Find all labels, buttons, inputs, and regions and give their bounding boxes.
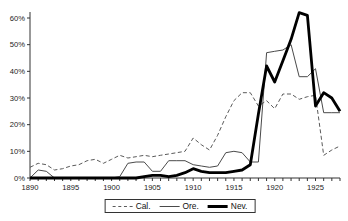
legend-label-ore: Ore. [183,202,199,210]
chart-legend: Cal. Ore. Nev. [105,199,256,213]
chart-figure: 0%10%20%30%40%50%60%18901895190019051910… [0,0,348,221]
legend-swatch-thick-line [208,205,228,208]
x-tick-label: 1915 [225,183,242,192]
x-tick-label: 1920 [266,183,283,192]
legend-label-nev: Nev. [231,202,248,210]
legend-item-cal: Cal. [113,202,151,210]
y-tick-label: 40% [10,67,25,76]
y-tick-label: 50% [10,40,25,49]
x-tick-label: 1910 [185,183,202,192]
x-tick-label: 1900 [103,183,120,192]
y-tick-label: 0% [14,174,25,183]
x-tick-label: 1895 [62,183,79,192]
chart-canvas: 0%10%20%30%40%50%60%18901895190019051910… [0,0,348,221]
series-line-cal [30,93,340,170]
legend-item-ore: Ore. [160,202,199,210]
legend-item-nev: Nev. [208,202,248,210]
legend-swatch-dashed-line [113,206,133,207]
series-line-ore [30,45,340,178]
y-tick-label: 20% [10,120,25,129]
y-tick-label: 30% [10,94,25,103]
x-tick-label: 1890 [22,183,39,192]
x-tick-label: 1905 [144,183,161,192]
y-tick-label: 60% [10,14,25,23]
legend-label-cal: Cal. [136,202,151,210]
y-tick-label: 10% [10,147,25,156]
x-tick-label: 1925 [307,183,324,192]
legend-swatch-solid-line [160,206,180,207]
